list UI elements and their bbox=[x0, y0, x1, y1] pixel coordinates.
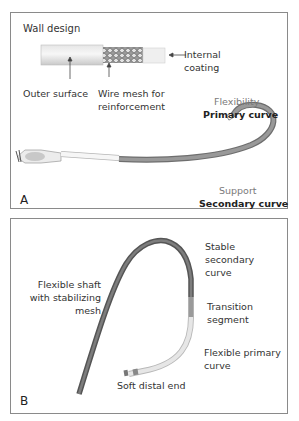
label-internal-coating-line1: Internal bbox=[184, 49, 221, 61]
label-stable-line3: curve bbox=[205, 267, 232, 279]
label-stable-line1: Stable bbox=[205, 241, 235, 253]
label-primary-curve: Primary curve bbox=[203, 109, 278, 121]
label-soft-distal-end: Soft distal end bbox=[117, 380, 186, 392]
label-shaft-line2: with stabilizing bbox=[30, 292, 101, 304]
label-flexible-primary-line1: Flexible primary bbox=[204, 347, 281, 359]
panel-a-wall-design: Wall design Internal coating Outer surfa… bbox=[10, 12, 288, 209]
panel-letter-a: A bbox=[20, 193, 28, 207]
catheter-b bbox=[79, 241, 191, 394]
panel-b-curve-segments: Flexible shaft with stabilizing mesh Sta… bbox=[10, 218, 288, 414]
wall-design-title: Wall design bbox=[23, 23, 80, 35]
label-outer-surface: Outer surface bbox=[23, 88, 88, 100]
label-wire-mesh-line2: reinforcement bbox=[98, 101, 165, 113]
label-transition-line1: Transition bbox=[207, 301, 253, 313]
label-shaft-line3: mesh bbox=[75, 305, 101, 317]
label-shaft-line1: Flexible shaft bbox=[38, 279, 101, 291]
label-internal-coating-line2: coating bbox=[184, 62, 219, 74]
label-stable-line2: secondary bbox=[205, 254, 254, 266]
label-support: Support bbox=[219, 185, 257, 197]
label-transition-line2: segment bbox=[207, 314, 249, 326]
label-wire-mesh-line1: Wire mesh for bbox=[98, 88, 165, 100]
label-flexibility: Flexibility bbox=[214, 96, 259, 108]
label-flexible-primary-line2: curve bbox=[204, 360, 231, 372]
panel-letter-b: B bbox=[20, 394, 28, 408]
wall-tube bbox=[41, 45, 165, 65]
label-secondary-curve: Secondary curve bbox=[199, 198, 288, 210]
